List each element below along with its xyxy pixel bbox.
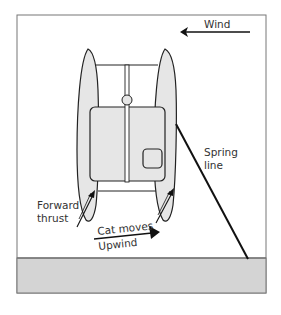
forward-thrust-label-2: thrust xyxy=(37,212,68,224)
forward-thrust-label-1: Forward xyxy=(37,199,79,211)
spring-line-label-1: Spring xyxy=(204,146,238,158)
center-beam xyxy=(125,65,129,182)
spring-line-label-2: line xyxy=(204,159,223,171)
hatch xyxy=(143,149,162,168)
wind-label: Wind xyxy=(204,18,230,30)
dock xyxy=(17,258,266,293)
mast xyxy=(122,95,132,105)
diagram-canvas xyxy=(0,0,281,315)
